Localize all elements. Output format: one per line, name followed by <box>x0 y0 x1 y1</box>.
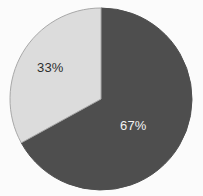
pie-chart-figure: 33% 67% <box>0 0 203 196</box>
pie-slice-label-33: 33% <box>37 61 64 74</box>
pie-slice-group <box>10 8 192 190</box>
pie-chart-canvas <box>0 0 203 196</box>
pie-slice-label-67: 67% <box>120 119 147 132</box>
